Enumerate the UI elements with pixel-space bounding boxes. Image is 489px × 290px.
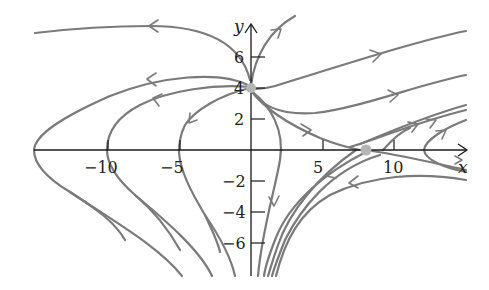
trajectories	[34, 16, 466, 276]
y-tick-label: 2	[234, 110, 244, 129]
y-tick-label: 4	[234, 79, 244, 98]
y-axis-label: y	[233, 16, 244, 36]
x-tick-label: −10	[84, 158, 118, 177]
critical-point-saddle	[361, 145, 372, 156]
phase-portrait: −10 −5 5 10 6 4 2 −2 −4 −6 x y	[0, 0, 489, 290]
trajectory-bottom-left-1	[70, 192, 182, 276]
y-tick-label: 6	[234, 48, 244, 67]
axes: −10 −5 5 10 6 4 2 −2 −4 −6 x y	[34, 16, 468, 276]
trajectory-lower-right	[276, 176, 466, 276]
x-tick-label: −5	[160, 158, 184, 177]
y-tick-label: −4	[222, 203, 246, 222]
trajectory-top-right	[251, 16, 295, 85]
x-tick-label: 5	[313, 158, 323, 177]
y-tick-label: −6	[222, 234, 246, 253]
critical-point-node	[246, 83, 256, 93]
trajectory-top-left	[35, 26, 250, 80]
x-tick-label: 10	[383, 158, 403, 177]
y-tick-label: −2	[222, 172, 246, 191]
trajectory-left-loop-1	[34, 77, 250, 240]
trajectory-upper-right-1	[256, 31, 466, 89]
trajectory-upper-right-2	[251, 75, 466, 113]
x-axis-label: x	[458, 157, 468, 177]
trajectory-stable-manifold-upper	[251, 90, 360, 150]
